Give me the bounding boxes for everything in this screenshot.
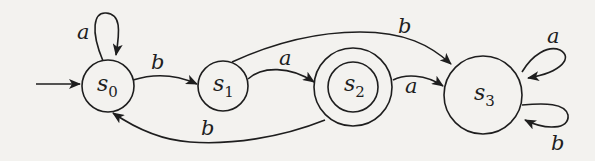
transition-s0-s1: b bbox=[133, 50, 197, 84]
transition-s3-s3-a: a bbox=[522, 24, 565, 78]
transition-s0-s0: a bbox=[77, 13, 119, 61]
state-label: s3 bbox=[474, 80, 495, 110]
state-label: s2 bbox=[344, 71, 365, 101]
state-s3: s3 bbox=[444, 56, 522, 134]
loop-arrow-icon bbox=[522, 104, 568, 127]
transition-s1-s3: b bbox=[232, 14, 451, 64]
transition-label: b bbox=[201, 116, 214, 140]
state-label: s1 bbox=[213, 71, 234, 101]
transition-s3-s3-b: b bbox=[522, 104, 568, 155]
arrow-icon bbox=[232, 32, 451, 64]
loop-arrow-icon bbox=[522, 49, 565, 78]
transition-label: b bbox=[151, 50, 164, 74]
transition-label: a bbox=[405, 74, 418, 98]
state-label: s0 bbox=[97, 71, 118, 101]
transition-s2-s0: b bbox=[113, 113, 325, 143]
transition-label: b bbox=[551, 131, 564, 155]
transition-label: a bbox=[77, 20, 90, 44]
state-s2: s2 bbox=[314, 48, 392, 126]
automaton-diagram: a b a b a b a b s0 s1 bbox=[0, 0, 595, 161]
transition-s2-s3: a bbox=[393, 74, 443, 98]
transition-label: a bbox=[547, 24, 560, 48]
state-s1: s1 bbox=[198, 61, 248, 111]
transition-label: b bbox=[398, 14, 411, 38]
arrow-icon bbox=[248, 70, 314, 82]
transition-label: a bbox=[279, 46, 292, 70]
arrow-icon bbox=[133, 76, 197, 84]
arrow-icon bbox=[113, 113, 325, 143]
loop-arrow-icon bbox=[95, 13, 119, 61]
arrow-icon bbox=[393, 76, 443, 86]
state-s0: s0 bbox=[82, 60, 134, 112]
